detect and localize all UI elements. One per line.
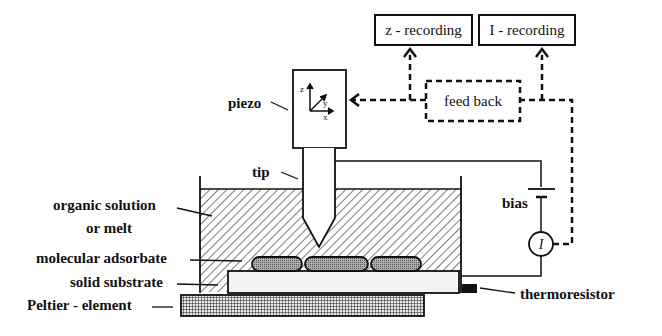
peltier-label: Peltier - element — [27, 297, 132, 313]
x-axis-label: x — [323, 112, 328, 122]
substrate-current-wire — [461, 256, 541, 276]
i-recording-box: I - recording — [479, 15, 575, 45]
piezo-leader — [271, 102, 288, 110]
thermoresistor-leader — [480, 288, 515, 293]
feedback-label: feed back — [444, 93, 502, 109]
organic-solution-label: organic solution — [53, 197, 157, 213]
piezo-label: piezo — [228, 95, 261, 111]
adsorbate-molecule — [252, 257, 302, 271]
current-meter: I — [529, 232, 553, 256]
i-recording-label: I - recording — [490, 22, 565, 38]
peltier-element — [181, 295, 424, 316]
thermoresistor-label: thermoresistor — [520, 286, 615, 302]
solid-substrate-label: solid substrate — [70, 274, 163, 290]
piezo: z y x — [293, 70, 346, 148]
solid-substrate — [228, 271, 459, 293]
adsorbate-molecule — [371, 257, 421, 271]
organic-solution-label-2: or melt — [86, 220, 132, 236]
molecular-adsorbate-label: molecular adsorbate — [36, 250, 167, 266]
tip-bias-wire — [335, 161, 541, 187]
molecular-adsorbate — [252, 257, 421, 271]
bias-battery-icon — [528, 189, 555, 232]
thermoresistor — [462, 284, 477, 293]
current-to-feedback-line — [520, 100, 572, 244]
bias-label: bias — [502, 195, 528, 211]
stm-diagram: z - recording I - recording feed back — [0, 0, 662, 336]
y-axis-label: y — [323, 98, 328, 108]
z-axis-label: z — [300, 84, 304, 94]
z-recording-label: z - recording — [385, 22, 462, 38]
tip-leader — [281, 172, 298, 179]
tip-label: tip — [252, 164, 270, 180]
feedback-box: feed back — [426, 81, 520, 121]
adsorbate-molecule — [305, 257, 368, 271]
z-recording-box: z - recording — [375, 15, 472, 45]
